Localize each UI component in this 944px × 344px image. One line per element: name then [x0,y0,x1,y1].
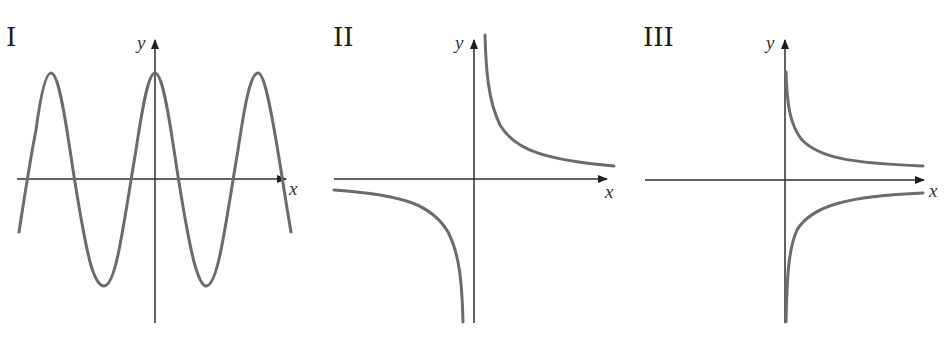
panel-1-x-label: x [288,178,298,199]
panel-3-lower-branch [786,193,923,322]
graphs-figure: I y x II y x III y x [0,0,944,344]
panel-3-upper-branch [786,72,923,166]
panel-2-y-label: y [453,32,464,53]
panel-1: I y x [6,22,298,323]
panel-3-y-label: y [764,32,775,53]
panel-3-x-label: x [928,180,938,201]
panel-3: III y x [643,22,938,323]
panel-1-label: I [6,22,16,52]
panel-2-upper-branch [485,35,614,166]
panel-1-y-label: y [135,32,146,53]
panel-3-label: III [643,22,674,52]
panel-2-lower-branch [334,190,463,322]
panel-2-label: II [333,22,354,52]
panel-2-x-label: x [604,181,614,202]
panel-2: II y x [333,22,614,323]
